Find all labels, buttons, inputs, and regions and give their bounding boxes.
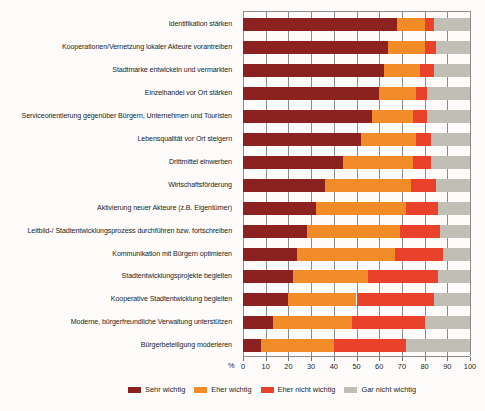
category-label: Kommunikation mit Bürgern optimieren [0, 248, 232, 261]
category-label: Wirtschaftsförderung [0, 179, 232, 192]
x-tick-label: 0 [241, 361, 245, 372]
bar-segment-gar-nicht-wichtig [434, 64, 470, 77]
x-tick-label: 60 [375, 361, 383, 372]
bar-segment-eher-nicht-wichtig [416, 87, 427, 100]
bar-segment-eher-wichtig [288, 293, 356, 306]
bar-segment-sehr-wichtig [243, 293, 288, 306]
bar-segment-eher-wichtig [307, 225, 400, 238]
category-label: Moderne, bürgerfreundliche Verwaltung un… [0, 316, 232, 329]
bar-segment-eher-wichtig [273, 316, 352, 329]
category-axis-labels: Identifikation stärkenKooperationen/Vern… [0, 11, 238, 356]
bar-segment-sehr-wichtig [243, 202, 316, 215]
legend-swatch-icon [344, 387, 357, 393]
legend-label: Gar nicht wichtig [361, 385, 416, 394]
bar-segment-eher-nicht-wichtig [400, 225, 441, 238]
bar-segment-gar-nicht-wichtig [427, 87, 470, 100]
legend-swatch-icon [261, 387, 274, 393]
legend-item: Gar nicht wichtig [344, 385, 416, 394]
bar-segment-sehr-wichtig [243, 18, 397, 31]
bar-segment-eher-wichtig [372, 110, 413, 123]
x-tick-label: 100 [464, 361, 476, 372]
bar-segment-eher-wichtig [325, 179, 411, 192]
bar-segment-gar-nicht-wichtig [431, 156, 470, 169]
x-tick-label: 30 [307, 361, 315, 372]
category-label: Kooperationen/Vernetzung lokaler Akteure… [0, 41, 232, 54]
x-tick-label: 70 [398, 361, 406, 372]
category-label: Leitbild-/ Stadtentwicklungsprozess durc… [0, 225, 232, 238]
bar-segment-sehr-wichtig [243, 156, 343, 169]
bar-segment-sehr-wichtig [243, 64, 384, 77]
x-axis-unit-label: % [228, 361, 235, 370]
bar-segment-sehr-wichtig [243, 41, 388, 54]
bar-segment-gar-nicht-wichtig [436, 179, 470, 192]
bar-segment-eher-nicht-wichtig [411, 179, 436, 192]
bar-segment-gar-nicht-wichtig [443, 248, 470, 261]
bar-row [243, 225, 470, 238]
bar-segment-sehr-wichtig [243, 270, 293, 283]
bar-segment-eher-nicht-wichtig [413, 110, 427, 123]
bar-segment-eher-nicht-wichtig [420, 64, 434, 77]
legend-label: Eher wichtig [211, 385, 251, 394]
chart-legend: Sehr wichtigEher wichtigEher nicht wicht… [128, 385, 416, 394]
x-tick-label: 40 [330, 361, 338, 372]
bar-segment-eher-wichtig [388, 41, 424, 54]
category-label: Einzelhandel vor Ort stärken [0, 87, 232, 100]
bar-row [243, 248, 470, 261]
bar-row [243, 293, 470, 306]
bar-row [243, 179, 470, 192]
bar-segment-eher-nicht-wichtig [334, 339, 407, 352]
bar-segment-eher-nicht-wichtig [357, 293, 434, 306]
chart-figure: Identifikation stärkenKooperationen/Vern… [0, 0, 485, 411]
bar-segment-sehr-wichtig [243, 339, 261, 352]
category-label: Kooperative Stadtentwicklung begleiten [0, 293, 232, 306]
bar-segment-gar-nicht-wichtig [431, 133, 470, 146]
x-tick-label: 20 [284, 361, 292, 372]
bar-segment-eher-nicht-wichtig [406, 202, 438, 215]
bar-segment-eher-wichtig [316, 202, 407, 215]
bar-segment-gar-nicht-wichtig [438, 202, 470, 215]
bar-segment-eher-wichtig [397, 18, 424, 31]
bar-segment-sehr-wichtig [243, 133, 361, 146]
bar-segment-gar-nicht-wichtig [440, 225, 470, 238]
bar-segment-sehr-wichtig [243, 248, 297, 261]
bar-row [243, 18, 470, 31]
bar-segment-gar-nicht-wichtig [425, 316, 470, 329]
legend-item: Eher nicht wichtig [261, 385, 336, 394]
legend-item: Sehr wichtig [128, 385, 185, 394]
bar-segment-sehr-wichtig [243, 316, 273, 329]
bar-segment-eher-wichtig [343, 156, 413, 169]
bar-segment-eher-wichtig [261, 339, 334, 352]
gridline-100 [470, 11, 471, 356]
bar-segment-eher-wichtig [297, 248, 395, 261]
bar-segment-gar-nicht-wichtig [427, 110, 470, 123]
bar-row [243, 202, 470, 215]
bar-row [243, 270, 470, 283]
bar-segment-gar-nicht-wichtig [436, 41, 470, 54]
x-axis: 0102030405060708090100 [243, 357, 470, 373]
x-tick-label: 80 [420, 361, 428, 372]
bar-segment-gar-nicht-wichtig [438, 270, 470, 283]
legend-label: Sehr wichtig [145, 385, 185, 394]
bar-segment-gar-nicht-wichtig [434, 18, 470, 31]
bar-row [243, 87, 470, 100]
plot-top-line [243, 11, 470, 12]
bar-row [243, 41, 470, 54]
bar-row [243, 110, 470, 123]
bar-segment-eher-nicht-wichtig [352, 316, 425, 329]
category-label: Lebensqualität vor Ort steigern [0, 133, 232, 146]
bar-segment-eher-nicht-wichtig [425, 18, 434, 31]
x-tick-label: 50 [352, 361, 360, 372]
bar-segment-sehr-wichtig [243, 110, 372, 123]
bar-segment-eher-nicht-wichtig [425, 41, 436, 54]
bar-segment-eher-wichtig [293, 270, 368, 283]
bar-row [243, 339, 470, 352]
x-tick-label: 90 [443, 361, 451, 372]
bar-segment-gar-nicht-wichtig [434, 293, 470, 306]
legend-swatch-icon [128, 387, 141, 393]
category-label: Bürgerbeteiligung moderieren [0, 339, 232, 352]
bar-segment-eher-wichtig [384, 64, 420, 77]
bar-segment-sehr-wichtig [243, 87, 379, 100]
bar-segment-gar-nicht-wichtig [406, 339, 470, 352]
bar-row [243, 156, 470, 169]
category-label: Aktivierung neuer Akteure (z.B. Eigentüm… [0, 202, 232, 215]
